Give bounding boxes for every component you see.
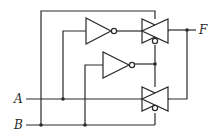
inverter-1 (86, 18, 111, 44)
wire-a-to-inv1 (63, 31, 86, 99)
circuit-diagram: A B F (0, 0, 221, 139)
label-b: B (13, 118, 23, 132)
inverter-1-bubble (111, 28, 116, 33)
inverter-2-bubble (129, 62, 134, 67)
wire-b-to-inv2 (85, 65, 103, 125)
junction-output (185, 28, 189, 32)
label-a: A (13, 92, 23, 106)
junction-b-inv2 (83, 123, 87, 127)
transmission-gate-1 (142, 19, 168, 44)
inverter-2 (103, 52, 129, 78)
wire-tg2-out (168, 30, 187, 99)
transmission-gate-2 (142, 87, 168, 111)
junction-b-loop (39, 123, 43, 127)
junction-inv2-node (153, 62, 157, 66)
label-f: F (198, 23, 208, 37)
junction-a-inv1 (61, 97, 65, 101)
